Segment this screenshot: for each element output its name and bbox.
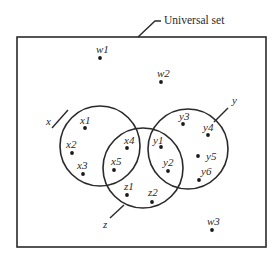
element-label: x2	[65, 138, 77, 150]
element-x3: x3	[76, 159, 88, 176]
venn-diagram: Universal set xyz w1w2w3x1x2x3x4x5y1y2y3…	[0, 0, 276, 260]
element-label: y1	[152, 134, 163, 146]
element-x2: x2	[65, 138, 77, 155]
element-y2: y2	[162, 156, 174, 173]
universal-set-rect	[17, 37, 266, 247]
universal-set-label: Universal set	[164, 14, 225, 26]
element-y6: y6	[197, 165, 212, 182]
element-label: y3	[178, 110, 190, 122]
element-dot	[181, 122, 185, 126]
element-x5: x5	[110, 155, 122, 172]
element-w3: w3	[207, 215, 220, 232]
element-w1: w1	[96, 43, 109, 60]
element-x1: x1	[79, 114, 90, 130]
element-label: w2	[157, 67, 170, 79]
element-label: z1	[123, 180, 134, 192]
elements: w1w2w3x1x2x3x4x5y1y2y3y4y5y6z1z2	[65, 43, 220, 232]
set-z-leader	[110, 205, 124, 218]
element-y4: y4	[202, 121, 214, 137]
set-z: z	[102, 128, 183, 230]
set-y-label: y	[231, 94, 237, 106]
element-dot	[196, 154, 200, 158]
element-label: w3	[207, 215, 220, 227]
element-dot	[159, 80, 163, 84]
sets: xyz	[45, 94, 237, 230]
element-dot	[206, 133, 210, 137]
element-label: y4	[202, 121, 214, 133]
element-dot	[112, 168, 116, 172]
element-dot	[125, 146, 129, 150]
element-dot	[150, 200, 154, 204]
element-dot	[166, 169, 170, 173]
element-z2: z2	[147, 186, 158, 204]
element-label: x4	[123, 134, 135, 146]
element-label: x5	[110, 155, 122, 167]
set-y-leader	[214, 108, 228, 122]
element-y5: y5	[196, 150, 217, 162]
universal-set-leader	[138, 21, 161, 37]
element-y3: y3	[178, 110, 190, 126]
element-label: y6	[200, 165, 212, 177]
element-w2: w2	[157, 67, 170, 84]
element-x4: x4	[123, 134, 135, 150]
element-y1: y1	[152, 134, 163, 149]
set-z-label: z	[102, 218, 108, 230]
set-x-label: x	[45, 115, 51, 127]
element-label: x3	[76, 159, 88, 171]
universal-set: Universal set	[17, 14, 266, 247]
element-label: y5	[205, 150, 217, 162]
set-z-circle	[103, 128, 183, 208]
element-z1: z1	[123, 180, 134, 197]
element-dot	[83, 126, 87, 130]
element-dot	[197, 178, 201, 182]
element-label: w1	[96, 43, 109, 55]
element-dot	[70, 151, 74, 155]
set-x: x	[45, 106, 140, 186]
element-dot	[81, 172, 85, 176]
element-dot	[125, 193, 129, 197]
element-label: z2	[147, 186, 158, 198]
element-dot	[210, 228, 214, 232]
element-dot	[98, 56, 102, 60]
element-label: y2	[162, 156, 174, 168]
element-label: x1	[79, 114, 90, 126]
